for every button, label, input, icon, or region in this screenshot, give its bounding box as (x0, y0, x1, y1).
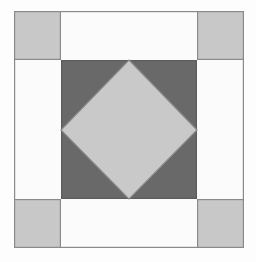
figure-canvas (0, 0, 256, 262)
corner-square-bottom-left (15, 200, 61, 248)
corner-square-top-right (198, 12, 244, 60)
corner-square-bottom-right (198, 200, 244, 248)
corner-square-top-left (15, 12, 61, 60)
quilt-block-diagram (0, 0, 256, 262)
